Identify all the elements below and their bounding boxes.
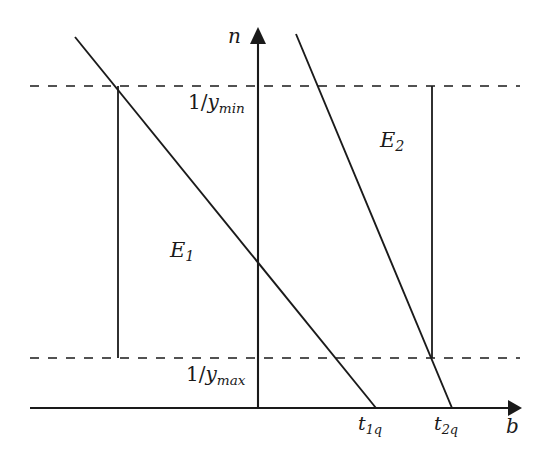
y-min-label: 1/ymin — [188, 92, 245, 115]
E2-label: E2 — [380, 130, 404, 153]
figure-canvas: n b 1/ymin 1/ymax E1 E2 t1q t2q — [0, 0, 548, 472]
n-axis-label: n — [228, 26, 241, 46]
tick-label-t2q-base: t — [434, 412, 442, 434]
n-axis-arrowhead-icon — [250, 27, 266, 44]
diagram-graphics — [0, 0, 548, 472]
E2-label-subscript: 2 — [395, 138, 404, 154]
y-min-fraction-prefix: 1/ — [188, 90, 207, 114]
b-axis-label: b — [506, 416, 519, 436]
tick-label-t1q: t1q — [358, 414, 382, 437]
E1-label-subscript: 1 — [185, 248, 194, 264]
y-max-label: 1/ymax — [186, 364, 245, 387]
E2-line — [296, 34, 452, 408]
y-min-variable: y — [207, 90, 218, 114]
tick-label-t1q-subscript: 1q — [366, 422, 382, 437]
tick-label-t1q-base: t — [358, 412, 366, 434]
tick-label-t2q-subscript: 2q — [442, 422, 458, 437]
E1-label-base: E — [170, 238, 185, 262]
y-max-fraction-prefix: 1/ — [186, 362, 205, 386]
E1-label: E1 — [170, 240, 194, 263]
y-max-variable: y — [205, 362, 216, 386]
y-max-subscript: max — [217, 372, 246, 388]
tick-label-t2q: t2q — [434, 414, 458, 437]
y-min-subscript: min — [219, 100, 245, 116]
E2-label-base: E — [380, 128, 395, 152]
